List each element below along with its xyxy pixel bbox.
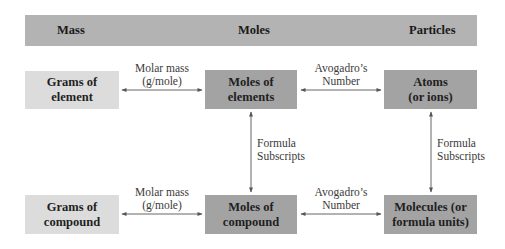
box-moles-of-elements: Moles of elements <box>205 70 297 109</box>
box-line: (or ions) <box>408 90 453 105</box>
label-formula-left: Formula Subscripts <box>257 137 305 163</box>
label-line: Molar mass <box>122 62 202 75</box>
label-line: (g/mole) <box>122 75 202 88</box>
label-line: Molar mass <box>122 186 202 199</box>
label-line: Number <box>301 75 381 88</box>
box-line: Grams of <box>44 200 100 215</box>
label-molar-mass-top: Molar mass (g/mole) <box>122 62 202 88</box>
box-line: Moles of <box>223 200 279 215</box>
box-grams-of-element: Grams of element <box>25 71 119 109</box>
box-moles-of-compound: Moles of compound <box>205 195 297 234</box>
label-line: Subscripts <box>437 150 485 163</box>
label-molar-mass-bottom: Molar mass (g/mole) <box>122 186 202 212</box>
box-grams-of-compound: Grams of compound <box>25 195 119 234</box>
label-line: Number <box>301 199 381 212</box>
box-line: Moles of <box>228 75 275 90</box>
label-line: Subscripts <box>257 150 305 163</box>
box-line: Grams of <box>47 75 97 90</box>
label-line: Avogadro’s <box>301 186 381 199</box>
label-formula-right: Formula Subscripts <box>437 137 485 163</box>
label-line: Formula <box>437 137 485 150</box>
label-line: Avogadro’s <box>301 62 381 75</box>
label-line: Formula <box>257 137 305 150</box>
box-line: Molecules (or <box>392 200 469 215</box>
box-line: formula units) <box>392 215 469 230</box>
box-line: element <box>47 90 97 105</box>
box-line: elements <box>228 90 275 105</box>
label-avogadro-bottom: Avogadro’s Number <box>301 186 381 212</box>
box-atoms: Atoms (or ions) <box>384 70 477 109</box>
box-line: compound <box>44 215 100 230</box>
label-avogadro-top: Avogadro’s Number <box>301 62 381 88</box>
box-molecules: Molecules (or formula units) <box>384 195 477 234</box>
box-line: Atoms <box>408 75 453 90</box>
box-line: compound <box>223 215 279 230</box>
label-line: (g/mole) <box>122 199 202 212</box>
